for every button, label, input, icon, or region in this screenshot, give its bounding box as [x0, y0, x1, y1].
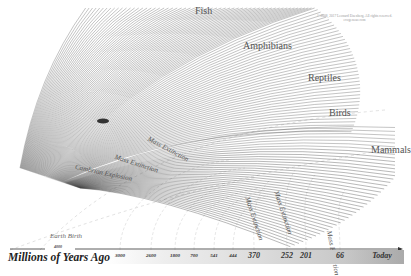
axis-title: Millions of Years Ago: [8, 251, 110, 263]
group-label-reptiles: Reptiles: [308, 72, 341, 83]
axis-tick-label: 2600: [146, 253, 156, 258]
axis-tick-label: 541: [210, 253, 218, 258]
axis-tick-label: 201: [300, 251, 312, 260]
fish-silhouette: [97, 119, 109, 124]
group-label-fish: Fish: [195, 5, 212, 16]
copyright-notice: © 2008, 2017 Leonard Eisenberg. All righ…: [312, 14, 397, 22]
axis-start-label: 4000: [54, 244, 62, 249]
group-label-amphibians: Amphibians: [243, 40, 292, 51]
axis-tick-label: 252: [281, 251, 293, 260]
axis-tick-label: 370: [248, 251, 260, 260]
axis-tick-label: 3000: [115, 253, 125, 258]
earth-birth-label: Earth Birth: [50, 232, 82, 240]
axis-tick-label: Today: [372, 251, 392, 260]
axis-tick-label: 444: [229, 253, 237, 258]
group-label-birds: Birds: [329, 107, 351, 118]
axis-tick-label: 1800: [170, 253, 180, 258]
group-label-mammals: Mammals: [371, 144, 411, 155]
axis-tick-label: 700: [190, 253, 198, 258]
axis-tick-label: 66: [336, 251, 344, 260]
